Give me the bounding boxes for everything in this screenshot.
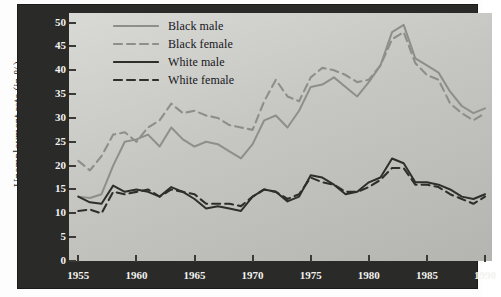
y-tick-mark-5 <box>69 236 76 238</box>
x-tick-label-1955: 1955 <box>55 270 101 281</box>
x-tick-mark-1980 <box>368 255 370 262</box>
y-tick-mark-35 <box>69 93 76 95</box>
x-tick-label-1960: 1960 <box>113 270 159 281</box>
y-tick-label-35: 35 <box>40 88 66 99</box>
y-tick-mark-0 <box>69 260 76 262</box>
y-tick-label-15: 15 <box>40 183 66 194</box>
y-tick-label-25: 25 <box>40 136 66 147</box>
y-tick-mark-45 <box>69 45 76 47</box>
y-tick-label-20: 20 <box>40 160 66 171</box>
y-tick-mark-15 <box>69 188 76 190</box>
y-tick-label-45: 45 <box>40 40 66 51</box>
legend-item-black-female[interactable]: Black female <box>113 35 263 53</box>
y-tick-label-30: 30 <box>40 112 66 123</box>
y-tick-label-50: 50 <box>40 17 66 28</box>
y-tick-mark-30 <box>69 117 76 119</box>
y-tick-mark-10 <box>69 212 76 214</box>
legend-label: White female <box>168 73 234 88</box>
x-tick-mark-1965 <box>194 255 196 262</box>
legend-swatch-icon <box>113 38 159 50</box>
x-tick-mark-1960 <box>135 255 137 262</box>
legend-swatch-icon <box>113 74 159 86</box>
x-tick-mark-1970 <box>252 255 254 262</box>
x-tick-label-1985: 1985 <box>404 270 450 281</box>
x-tick-mark-1985 <box>426 255 428 262</box>
legend-item-white-male[interactable]: White male <box>113 53 263 71</box>
y-tick-mark-40 <box>69 69 76 71</box>
x-tick-mark-1990 <box>484 255 486 262</box>
x-tick-label-1970: 1970 <box>230 270 276 281</box>
y-tick-label-5: 5 <box>40 231 66 242</box>
x-tick-mark-1975 <box>310 255 312 262</box>
y-tick-label-10: 10 <box>40 207 66 218</box>
x-tick-label-1975: 1975 <box>288 270 334 281</box>
chart-frame: 05101520253035404550 Black maleBlack fem… <box>17 4 478 289</box>
legend-item-white-female[interactable]: White female <box>113 71 263 89</box>
x-tick-mark-1955 <box>77 255 79 262</box>
legend-item-black-male[interactable]: Black male <box>113 17 263 35</box>
chart-legend: Black maleBlack femaleWhite maleWhite fe… <box>113 17 263 89</box>
legend-label: Black female <box>168 37 233 52</box>
x-tick-label-1965: 1965 <box>172 270 218 281</box>
legend-label: Black male <box>168 19 223 34</box>
y-tick-label-40: 40 <box>40 64 66 75</box>
y-tick-label-0: 0 <box>40 255 66 266</box>
y-tick-mark-20 <box>69 165 76 167</box>
legend-label: White male <box>168 55 225 70</box>
x-tick-label-1980: 1980 <box>346 270 392 281</box>
y-tick-mark-50 <box>69 22 76 24</box>
legend-swatch-icon <box>113 56 159 68</box>
legend-swatch-icon <box>113 20 159 32</box>
y-axis-tick-labels: 05101520253035404550 <box>36 5 66 290</box>
y-tick-mark-25 <box>69 141 76 143</box>
x-tick-label-1990: 1990 <box>462 270 501 281</box>
